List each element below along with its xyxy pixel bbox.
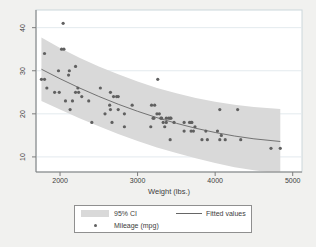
x-tick-label: 4000 [200, 177, 230, 185]
data-point [269, 147, 272, 150]
data-point [71, 99, 74, 102]
data-point [53, 91, 56, 94]
data-point [183, 129, 186, 132]
data-point [153, 104, 156, 107]
data-point [109, 91, 112, 94]
data-point [190, 121, 193, 124]
data-point [156, 78, 159, 81]
legend-label-ci: 95% CI [114, 210, 137, 217]
data-point [206, 138, 209, 141]
data-point [87, 99, 90, 102]
x-tick-label: 2000 [45, 177, 75, 185]
y-tick-label: 10 [19, 147, 27, 167]
data-point [152, 117, 155, 120]
data-point [165, 117, 168, 120]
data-point [236, 108, 239, 111]
data-point [57, 69, 60, 72]
x-tick-label: 5000 [278, 177, 308, 185]
data-point [150, 104, 153, 107]
data-point [192, 129, 195, 132]
data-point [103, 112, 106, 115]
data-point [123, 112, 126, 115]
legend-box: 95% CI Fitted values Mileage (mpg) [74, 205, 252, 233]
data-point [67, 73, 70, 76]
data-point [77, 91, 80, 94]
data-point [239, 138, 242, 141]
data-point [80, 95, 83, 98]
data-point [68, 69, 71, 72]
data-point [200, 138, 203, 141]
data-point [64, 99, 67, 102]
x-axis-title: Weight (lbs.) [36, 187, 302, 196]
data-point [40, 78, 43, 81]
y-tick-label: 20 [19, 104, 27, 124]
data-point [165, 121, 168, 124]
data-point [99, 86, 102, 89]
data-point [69, 108, 72, 111]
data-point [163, 125, 166, 128]
data-point [62, 48, 65, 51]
data-point [108, 104, 111, 107]
data-point [224, 138, 227, 141]
y-tick-label: 40 [19, 18, 27, 38]
data-point [58, 91, 61, 94]
fitted-line-swatch-icon [176, 213, 202, 214]
data-point [45, 86, 48, 89]
data-point [162, 121, 165, 124]
data-point [109, 108, 112, 111]
data-point [169, 138, 172, 141]
x-tick-label: 3000 [123, 177, 153, 185]
data-point [183, 121, 186, 124]
legend-label-fitted-values: Fitted values [206, 210, 246, 217]
data-point [216, 129, 219, 132]
stata-graph-window: 2000300040005000 10203040 Weight (lbs.) … [0, 0, 316, 247]
data-point [204, 129, 207, 132]
data-point [193, 125, 196, 128]
data-point [62, 22, 65, 25]
data-point [74, 91, 77, 94]
data-point [76, 86, 79, 89]
data-point [220, 134, 223, 137]
data-point [218, 138, 221, 141]
legend-label-mileage: Mileage (mpg) [114, 222, 159, 229]
data-point [172, 121, 175, 124]
data-point [110, 121, 113, 124]
data-point [279, 147, 282, 150]
data-point [90, 121, 93, 124]
data-point [169, 117, 172, 120]
data-point [115, 95, 118, 98]
data-point [112, 95, 115, 98]
data-point [158, 112, 161, 115]
ci-band-swatch-icon [81, 210, 109, 217]
data-point [74, 65, 77, 68]
data-point [218, 108, 221, 111]
data-point [117, 108, 120, 111]
data-point [43, 52, 46, 55]
data-point [159, 117, 162, 120]
data-point [43, 78, 46, 81]
data-point [149, 125, 152, 128]
data-point [123, 125, 126, 128]
data-point [131, 104, 134, 107]
scatter-dot-swatch-icon [94, 224, 97, 227]
y-tick-label: 30 [19, 61, 27, 81]
